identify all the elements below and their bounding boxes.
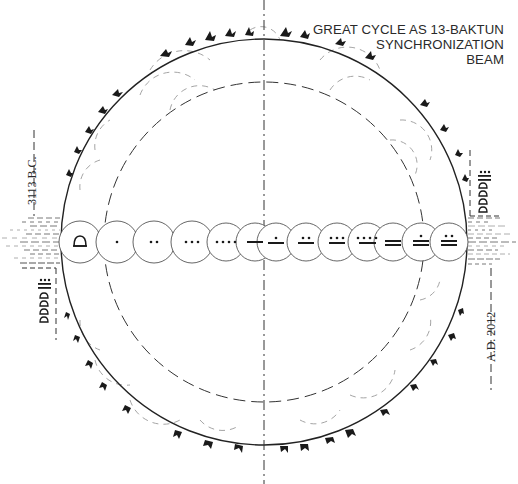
baktun-circle-0 [59, 221, 101, 263]
beam-rays-left [2, 218, 60, 263]
title-line-1: GREAT CYCLE AS 13-BAKTUN [313, 22, 504, 37]
beam-rays-right [468, 218, 516, 264]
title-line-2: SYNCHRONIZATION [313, 37, 504, 52]
diagram-title: GREAT CYCLE AS 13-BAKTUN SYNCHRONIZATION… [313, 22, 504, 67]
start-date-glyph-stack [38, 279, 51, 322]
baktun-beam [59, 221, 468, 263]
end-date-glyph-stack [478, 171, 491, 212]
title-line-3: BEAM [313, 52, 504, 67]
baktun-circle-2 [133, 221, 175, 263]
end-date-label: A.D. 2012 [484, 312, 499, 362]
great-cycle-diagram [0, 0, 518, 484]
start-date-label: 3113 B.C. [25, 156, 40, 205]
